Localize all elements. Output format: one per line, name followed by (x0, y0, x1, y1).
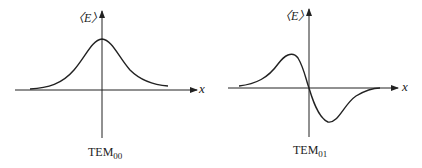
tem00-panel (15, 11, 197, 138)
tem01-y-axis-label: 〈E〉 (279, 6, 310, 24)
tem01-mode-label: TEM01 (293, 143, 327, 159)
tem00-gaussian-curve (30, 39, 168, 89)
tem01-panel (228, 9, 398, 137)
tem00-x-axis-label: x (199, 81, 205, 97)
tem01-x-axis-label: x (402, 79, 408, 95)
field-profile-diagram (0, 0, 422, 168)
tem01-mode-prefix: TEM (293, 143, 318, 157)
tem00-y-axis-label: 〈E〉 (72, 8, 103, 26)
tem01-mode-index: 01 (318, 149, 327, 159)
tem00-mode-label: TEM00 (88, 145, 122, 161)
tem00-mode-index: 00 (113, 151, 122, 161)
tem00-mode-prefix: TEM (88, 145, 113, 159)
